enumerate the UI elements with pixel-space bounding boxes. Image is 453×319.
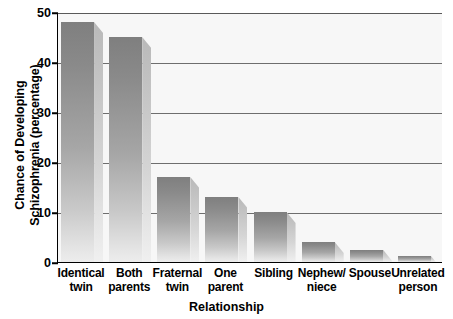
bar-side-face — [335, 242, 344, 262]
bar — [398, 256, 431, 262]
bar — [350, 250, 383, 263]
x-axis-tick-label-line: parent — [194, 280, 256, 294]
y-axis-tick-label: 50 — [37, 6, 51, 20]
x-axis-tick-label: Unrelatedperson — [387, 266, 449, 294]
y-axis-title-line-1: Chance of Developing — [13, 80, 28, 209]
x-axis-title: Relationship — [0, 300, 453, 314]
bar-side-face — [94, 22, 103, 262]
bar-side-face — [287, 212, 296, 262]
bar — [254, 212, 287, 262]
y-axis-tick-label: 30 — [37, 106, 51, 120]
bar-side-face — [238, 197, 247, 262]
bar-slot — [61, 13, 94, 262]
plot-area: 01020304050 — [57, 13, 442, 263]
bar-side-face — [431, 256, 440, 262]
bar-side-face — [142, 37, 151, 262]
y-axis-tick-label: 40 — [37, 56, 51, 70]
bar — [302, 242, 335, 262]
bar-slot — [205, 13, 238, 262]
x-axis-tick-label-line: person — [387, 280, 449, 294]
bar-slot — [254, 13, 287, 262]
bar-slot — [109, 13, 142, 262]
bar — [61, 22, 94, 262]
bar-slot — [398, 13, 431, 262]
bar-slot — [157, 13, 190, 262]
y-axis-tick-label: 10 — [37, 206, 51, 220]
bar — [205, 197, 238, 262]
bar — [157, 177, 190, 262]
bar-side-face — [383, 250, 392, 263]
y-axis-tick-mark — [52, 262, 58, 264]
x-axis-tick-labels: IdenticaltwinBothparentsFraternaltwinOne… — [57, 266, 441, 300]
bar — [109, 37, 142, 262]
x-axis-tick-label-line: niece — [291, 280, 353, 294]
y-axis-title-line-2: Schizophrenia (percentage) — [28, 64, 43, 225]
bar-slot — [350, 13, 383, 262]
x-axis-tick-label-line: Unrelated — [387, 266, 449, 280]
bar-slot — [302, 13, 335, 262]
bar-chart: Chance of Developing Schizophrenia (perc… — [0, 0, 453, 319]
bar-side-face — [190, 177, 199, 262]
y-axis-tick-label: 20 — [37, 156, 51, 170]
bars-group — [58, 13, 442, 262]
